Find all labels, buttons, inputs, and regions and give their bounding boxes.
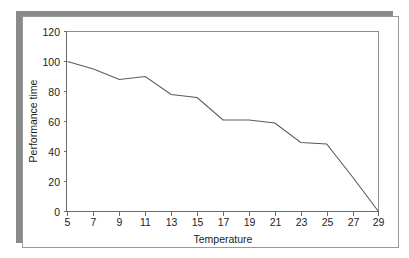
y-axis-title: Performance time	[27, 79, 39, 162]
x-tick-label: 11	[140, 216, 151, 228]
y-tick-label: 0	[54, 206, 60, 218]
x-tick-label: 21	[270, 216, 282, 228]
x-tick-label: 27	[348, 216, 360, 228]
figure-card: 120 100 80 60 40 20 0	[22, 16, 399, 248]
plot-frame	[67, 32, 379, 212]
y-tick-label: 100	[42, 56, 60, 68]
line-chart: 120 100 80 60 40 20 0	[23, 17, 398, 247]
x-tick-label: 9	[117, 216, 123, 228]
y-tick-label: 120	[42, 26, 60, 38]
data-series-line	[68, 62, 379, 212]
x-tick-label: 23	[296, 216, 308, 228]
y-tick-labels: 120 100 80 60 40 20 0	[42, 26, 60, 218]
y-tick-label: 20	[48, 176, 60, 188]
x-tick-marks	[68, 212, 379, 216]
x-tick-label: 7	[91, 216, 97, 228]
x-tick-label: 25	[322, 216, 334, 228]
x-tick-labels: 5 7 9 11 13 15 17 19 21 23 25 27 29	[65, 216, 385, 228]
x-tick-label: 13	[166, 216, 178, 228]
x-tick-label: 29	[373, 216, 385, 228]
x-tick-label: 17	[218, 216, 230, 228]
y-tick-label: 40	[48, 146, 60, 158]
x-axis-title: Temperature	[194, 233, 253, 245]
y-tick-label: 80	[48, 86, 60, 98]
figure-root: 120 100 80 60 40 20 0	[0, 0, 409, 258]
y-tick-label: 60	[48, 116, 60, 128]
x-tick-label: 15	[192, 216, 204, 228]
x-tick-label: 19	[244, 216, 256, 228]
x-tick-label: 5	[65, 216, 71, 228]
